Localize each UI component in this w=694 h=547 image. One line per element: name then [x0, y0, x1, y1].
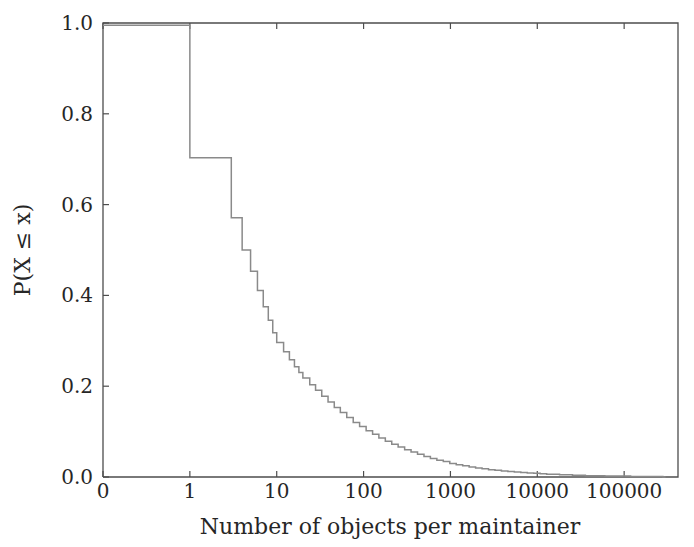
y-axis-ticks: 0.00.20.40.60.81.0	[61, 11, 109, 489]
x-tick-label: 1	[183, 479, 196, 503]
cdf-step-line	[103, 25, 666, 477]
y-tick-label: 0.2	[61, 374, 93, 398]
x-tick-label: 1000	[425, 479, 476, 503]
x-tick-label: 10	[264, 479, 289, 503]
x-axis-label: Number of objects per maintainer	[200, 514, 581, 539]
y-tick-label: 0.0	[61, 465, 93, 489]
y-tick-label: 0.4	[61, 283, 93, 307]
y-tick-label: 1.0	[61, 11, 93, 35]
cdf-chart: 0110100100010000100000 0.00.20.40.60.81.…	[0, 0, 694, 547]
x-axis-ticks: 0110100100010000100000	[97, 23, 663, 503]
y-axis-label: P(X ≤ x)	[10, 204, 35, 296]
chart-page: 0110100100010000100000 0.00.20.40.60.81.…	[0, 0, 694, 547]
x-tick-label: 100	[344, 479, 382, 503]
x-tick-label: 100000	[586, 479, 662, 503]
x-tick-label: 0	[97, 479, 110, 503]
data-series-group	[103, 25, 666, 477]
y-tick-label: 0.6	[61, 193, 93, 217]
y-tick-label: 0.8	[61, 102, 93, 126]
x-tick-label: 10000	[505, 479, 569, 503]
